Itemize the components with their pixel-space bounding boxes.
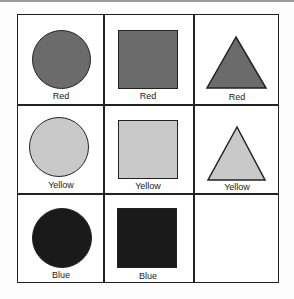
empty-cell	[195, 195, 278, 282]
blue-circle	[32, 208, 92, 268]
cell-label: Yellow	[194, 182, 280, 192]
cell-label: Blue	[18, 270, 104, 280]
cell-label: Blue	[105, 271, 191, 281]
blue-square	[117, 208, 177, 268]
